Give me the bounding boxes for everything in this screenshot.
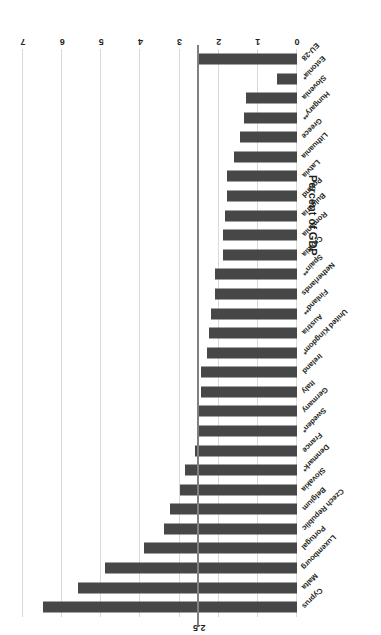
bar-row [23, 108, 297, 128]
value-axis-ticks: 01234567 [23, 27, 297, 49]
bar-row [23, 539, 297, 559]
bar [195, 445, 297, 456]
bar-row [23, 421, 297, 441]
bar-row [23, 480, 297, 500]
bar-row [23, 597, 297, 617]
bar-row [23, 382, 297, 402]
bar-row [23, 225, 297, 245]
reference-line-label: 2.5 [193, 623, 206, 633]
bar-row [23, 88, 297, 108]
bar-row [23, 362, 297, 382]
bar-rows [23, 49, 297, 617]
bar [164, 523, 297, 534]
tick-label: 7 [20, 37, 25, 47]
bar [215, 269, 297, 280]
bar-row [23, 128, 297, 148]
bar [223, 230, 297, 241]
bar [240, 132, 297, 143]
bar [43, 602, 297, 613]
bar [185, 465, 297, 476]
axis-title: Percent of GDP [307, 175, 319, 256]
bar [199, 54, 297, 65]
bar [234, 151, 297, 162]
bar [78, 582, 297, 593]
bar [223, 249, 297, 260]
bar-row [23, 500, 297, 520]
bar-row [23, 460, 297, 480]
tick-label: 3 [177, 37, 182, 47]
category-label: Italy [300, 379, 316, 395]
bar-row [23, 284, 297, 304]
bar-chart: CyprusMaltaLuxembourgPortugalCzech Repub… [0, 0, 381, 635]
reference-line [197, 45, 199, 627]
bar [277, 73, 297, 84]
tick-label: 2 [216, 37, 221, 47]
bar-row [23, 402, 297, 422]
plot-area [23, 49, 297, 617]
bar-row [23, 441, 297, 461]
bar-row [23, 167, 297, 187]
bar-row [23, 147, 297, 167]
bar [227, 171, 297, 182]
bar [211, 308, 297, 319]
category-label: Ireland [300, 352, 323, 375]
bar-row [23, 206, 297, 226]
bar-row [23, 49, 297, 69]
bar [105, 563, 297, 574]
bar [197, 426, 297, 437]
bar [244, 112, 297, 123]
bar-row [23, 186, 297, 206]
bar-row [23, 69, 297, 89]
bar-row [23, 343, 297, 363]
bar [207, 347, 297, 358]
bar [227, 191, 297, 202]
bar [170, 504, 297, 515]
bar-row [23, 245, 297, 265]
tick-label: 4 [138, 37, 143, 47]
bar-row [23, 304, 297, 324]
bar [246, 93, 297, 104]
bar-row [23, 558, 297, 578]
bar [225, 210, 297, 221]
bar [201, 386, 297, 397]
category-labels: CyprusMaltaLuxembourgPortugalCzech Repub… [297, 49, 381, 617]
tick-label: 5 [99, 37, 104, 47]
tick-label: 1 [255, 37, 260, 47]
bar-row [23, 578, 297, 598]
bar-row [23, 265, 297, 285]
bar [201, 367, 297, 378]
bar [209, 328, 297, 339]
tick-label: 0 [294, 37, 299, 47]
bar [199, 406, 297, 417]
rotated-chart-container: CyprusMaltaLuxembourgPortugalCzech Repub… [0, 0, 381, 635]
bar-row [23, 519, 297, 539]
bar-row [23, 323, 297, 343]
tick-label: 6 [60, 37, 65, 47]
bar [215, 288, 297, 299]
bar [144, 543, 297, 554]
